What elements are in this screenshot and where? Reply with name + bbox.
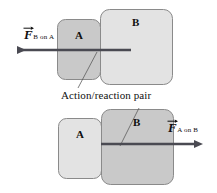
bottom-block-a-label: A [76,129,84,140]
bottom-block-b-label: B [133,117,141,128]
force-label-a-on-b: F A on B [168,121,198,134]
force-label-b-on-a: F B on A [24,28,54,41]
top-block-b-label: B [132,17,140,28]
action-reaction-caption: Action/reaction pair [61,90,151,101]
force-symbol-b-on-a: F [24,28,33,41]
force-subscript-b-on-a: B on A [33,34,54,42]
top-block-a-label: A [75,30,83,41]
force-symbol-a-on-b: F [168,121,177,134]
force-subscript-a-on-b: A on B [177,127,198,135]
physics-figure: A B F B on A Action/reaction pair A B F … [0,0,217,193]
